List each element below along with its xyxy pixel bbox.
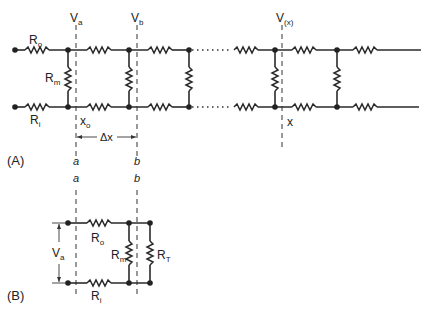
- resistor-rm: [334, 67, 340, 91]
- resistor-rm: [126, 241, 132, 265]
- part-a-ladder-network: Ro Rm Ri Va Vb V(x) xo x Δx a b (A): [7, 11, 421, 168]
- input-terminal-top: [12, 47, 18, 53]
- resistor-rm: [126, 67, 132, 91]
- part-b-equivalent-circuit: a b Va Ro Ri Rm RT (B): [7, 172, 171, 305]
- label-a: a: [73, 172, 79, 184]
- resistor-ri: [87, 280, 111, 286]
- label-rm: Rm: [45, 71, 61, 87]
- input-terminal-bottom: [12, 104, 18, 110]
- resistor-ri-segment: [148, 104, 172, 110]
- label-vx: V(x): [276, 11, 294, 27]
- resistor-ro-segment: [353, 47, 377, 53]
- resistor-rm: [272, 67, 278, 91]
- label-vb: Vb: [131, 11, 144, 27]
- membrane-rungs: [65, 50, 340, 107]
- label-x: x: [287, 115, 293, 129]
- resistor-rm: [65, 67, 71, 91]
- resistor-rm: [186, 67, 192, 91]
- resistor-ro-segment: [292, 47, 316, 53]
- label-a: a: [73, 155, 79, 167]
- resistor-ri-segment: [87, 104, 111, 110]
- resistor-ro: [87, 220, 111, 226]
- label-rm: Rm: [111, 248, 127, 264]
- label-delta-x: Δx: [100, 131, 113, 143]
- label-b: b: [134, 172, 140, 184]
- label-rt: RT: [157, 248, 171, 264]
- resistor-ro-segment: [87, 47, 111, 53]
- resistor-ri: [25, 104, 49, 110]
- panel-label-a: (A): [7, 153, 24, 168]
- resistor-rt: [147, 241, 153, 265]
- resistor-ro-segment: [148, 47, 172, 53]
- label-ri: Ri: [30, 113, 41, 129]
- resistor-ri-segment: [292, 104, 316, 110]
- label-ri: Ri: [91, 289, 102, 305]
- label-ro: Ro: [91, 231, 105, 247]
- resistor-ri-segment: [353, 104, 377, 110]
- cable-circuit-diagram: Ro Rm Ri Va Vb V(x) xo x Δx a b (A): [0, 0, 429, 309]
- resistor-ro-segment: [234, 47, 258, 53]
- resistor-ri-segment: [234, 104, 258, 110]
- label-b: b: [134, 155, 140, 167]
- junction-nodes: [12, 47, 340, 110]
- label-va: Va: [70, 11, 83, 27]
- label-ro: Ro: [29, 33, 43, 49]
- label-x0: xo: [80, 114, 91, 130]
- panel-label-b: (B): [7, 288, 24, 303]
- label-va: Va: [52, 246, 65, 262]
